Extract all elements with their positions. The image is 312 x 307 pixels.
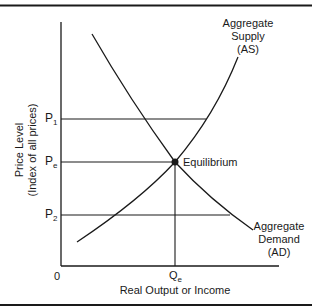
- as-label-line3: (AS): [218, 43, 278, 56]
- pe-tick: Pe: [45, 155, 57, 172]
- p2-tick: P2: [45, 208, 57, 225]
- aggregate-supply-curve: [77, 57, 238, 242]
- ad-label-line2: Demand: [250, 233, 308, 246]
- aggregate-supply-label: Aggregate Supply (AS): [218, 17, 278, 56]
- equilibrium-label: Equilibrium: [183, 156, 237, 169]
- aggregate-demand-label: Aggregate Demand (AD): [250, 220, 308, 259]
- ad-label-line1: Aggregate: [250, 220, 308, 233]
- equilibrium-point: [172, 159, 179, 166]
- x-axis-label: Real Output or Income: [110, 284, 240, 297]
- origin-label: 0: [54, 270, 60, 282]
- as-label-line1: Aggregate: [218, 17, 278, 30]
- p1-tick: P1: [45, 112, 57, 129]
- aggregate-demand-curve: [92, 34, 253, 230]
- y-axis-label: Price Level (Index of all prices): [13, 104, 39, 197]
- as-label-line2: Supply: [218, 30, 278, 43]
- ad-label-line3: (AD): [250, 246, 308, 259]
- y-axis-label-line1: Price Level: [13, 104, 26, 197]
- y-axis-label-line2: (Index of all prices): [26, 104, 39, 197]
